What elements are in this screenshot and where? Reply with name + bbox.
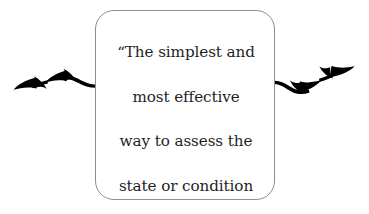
quote-text: “The simplest and most effective way to … [96,19,276,214]
quote-line: most effective [96,86,276,108]
quote-line: “The simplest and [96,41,276,63]
image-canvas: “The simplest and most effective way to … [0,0,369,214]
quote-line: state or condition [96,175,276,197]
quote-card: “The simplest and most effective way to … [95,10,275,200]
quote-line: way to assess the [96,130,276,152]
